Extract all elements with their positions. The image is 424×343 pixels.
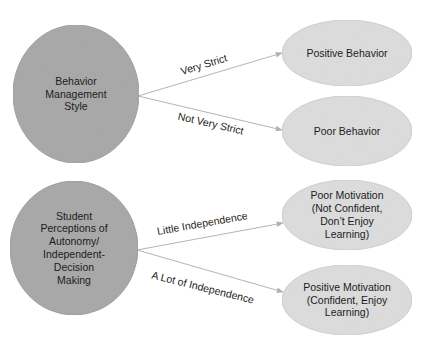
node-label-line: Learning): [325, 228, 369, 240]
node-label-line: Student: [56, 210, 92, 222]
concept-diagram: BehaviorManagementStylePositive Behavior…: [0, 0, 424, 343]
node-label-line: Independent-: [43, 248, 105, 260]
node-label-line: Perceptions of: [40, 222, 107, 234]
node-label-line: Don’t Enjoy: [320, 215, 374, 227]
node-label-line: Positive Behavior: [306, 47, 388, 59]
node-label-line: Poor Behavior: [314, 125, 381, 137]
edge-label: A Lot of Independence: [151, 269, 256, 306]
node-label-line: (Confident, Enjoy: [307, 294, 388, 306]
node-label-line: Behavior: [55, 75, 97, 87]
node-label-line: Poor Motivation: [311, 189, 384, 201]
node-positive-motivation: Positive Motivation(Confident, EnjoyLear…: [282, 265, 412, 335]
edge-labels-layer: Very StrictNot Very StrictLittle Indepen…: [151, 51, 256, 305]
node-behavior-management-style: BehaviorManagementStyle: [13, 25, 139, 163]
node-student-perceptions-of-autonomy: StudentPerceptions ofAutonomy/Independen…: [10, 181, 138, 315]
node-label-line: Management: [45, 88, 106, 100]
edge-label: Little Independence: [156, 209, 249, 237]
node-label-line: Learning): [325, 306, 369, 318]
edge-label: Very Strict: [179, 51, 228, 76]
node-label-line: Positive Motivation: [303, 281, 391, 293]
edges-layer: [137, 53, 283, 292]
node-label-line: Autonomy/: [49, 235, 99, 247]
node-poor-motivation: Poor Motivation(Not Confident,Don’t Enjo…: [282, 180, 412, 250]
node-poor-behavior: Poor Behavior: [282, 96, 412, 166]
node-label-line: Style: [64, 100, 88, 112]
node-label-line: Making: [57, 274, 91, 286]
node-label-line: Decision: [54, 261, 94, 273]
node-positive-behavior: Positive Behavior: [282, 20, 412, 86]
node-label-line: (Not Confident,: [312, 202, 383, 214]
